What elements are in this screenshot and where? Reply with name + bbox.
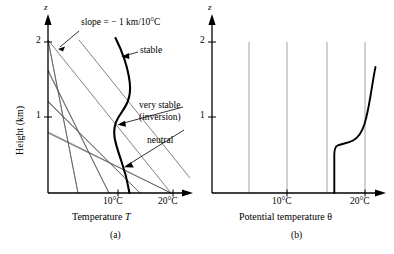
panel-b-ytick-label-2: 2: [200, 36, 205, 46]
panel-b-x-axis-title-text: Potential temperature: [239, 211, 325, 222]
very-stable-label: very stable: [139, 101, 180, 111]
potential-temperature-curve: [334, 67, 375, 193]
figure-root: [0, 0, 394, 254]
panel-a-caption: (a): [110, 231, 121, 241]
neutral-label: neutral: [147, 136, 173, 146]
panel-b-z-symbol: z: [208, 3, 212, 12]
panel-b-gridlines: [249, 42, 365, 193]
panel-a-x-axis-title-text: Temperature: [72, 211, 122, 222]
panel-a-y-axis-title: Height (km): [14, 106, 25, 155]
panel-b-x-axis-title: Potential temperature θ: [239, 212, 332, 222]
panel-a-ytick-label-1: 1: [36, 111, 41, 121]
panel-b-caption: (b): [291, 231, 302, 241]
panel-b-ytick-label-1: 1: [200, 111, 205, 121]
panel-a-ytick-label-2: 2: [36, 36, 41, 46]
panel-b-xtick-label-10: 10°C: [272, 197, 292, 207]
panel-a-z-symbol: z: [44, 3, 48, 12]
panel-b-x-axis-title-symbol: θ: [327, 211, 332, 222]
slope-note-label: slope = − 1 km/10°C: [81, 18, 160, 28]
very-stable-inversion-label: (inversion): [139, 113, 181, 123]
panel-a-xtick-label-10: 10°C: [103, 197, 123, 207]
panel-a-x-axis-title: Temperature T: [72, 212, 130, 222]
panel-a-x-axis-title-symbol: T: [125, 211, 131, 222]
panel-b-xtick-label-20: 20°C: [350, 197, 370, 207]
panel-b-y-axis: [208, 14, 216, 193]
panel-b: [208, 14, 386, 197]
panel-a-xtick-label-20: 20°C: [158, 197, 178, 207]
stable-label: stable: [140, 46, 162, 56]
